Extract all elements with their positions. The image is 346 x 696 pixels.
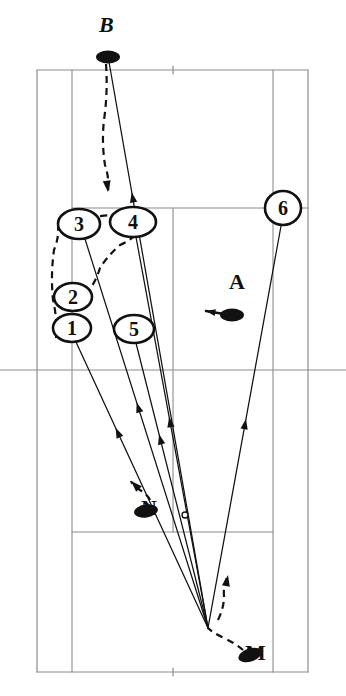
diagram-canvas: 123456BANM: [0, 0, 346, 696]
movement-hitter-up-arrow: [222, 575, 230, 587]
shot-path-1-to-hitter-arrow: [116, 428, 124, 439]
movement-B-forward: [103, 64, 108, 192]
player-label-B: B: [98, 12, 114, 37]
player-label-M: M: [245, 640, 266, 665]
ball-contact-point: [182, 512, 188, 518]
player-label-N: N: [141, 495, 157, 520]
shot-path-B-to-court-arrow: [130, 192, 137, 203]
marker-label-6: 6: [278, 197, 288, 219]
shot-path-5-to-hitter-arrow: [158, 434, 165, 445]
marker-label-5: 5: [129, 318, 139, 340]
shot-path-B-to-court: [109, 62, 208, 628]
shot-path-6-to-hitter-arrow: [240, 419, 247, 430]
marker-label-2: 2: [68, 286, 78, 308]
marker-label-4: 4: [128, 211, 138, 233]
tennis-court-diagram: 123456BANM: [0, 0, 346, 696]
movement-M-to-court: [208, 628, 243, 650]
movement-B-forward-arrow: [103, 180, 111, 192]
marker-label-1: 1: [67, 317, 77, 339]
marker-label-3: 3: [74, 213, 84, 235]
shot-path-5-to-hitter: [136, 343, 208, 628]
shot-path-3-to-hitter-arrow: [136, 402, 143, 413]
player-label-A: A: [229, 269, 245, 294]
shot-path-1-to-hitter: [76, 342, 208, 628]
player-token-B[interactable]: [96, 51, 120, 64]
